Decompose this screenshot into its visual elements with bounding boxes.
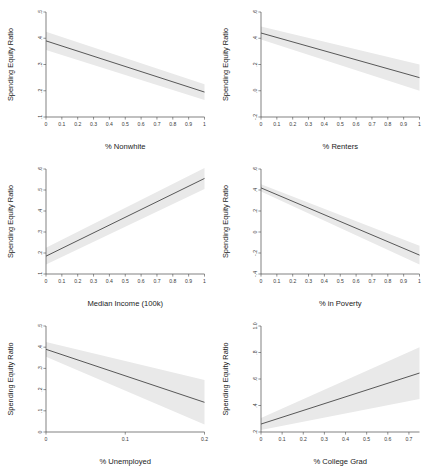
panel-grid: .5.4.3.2.100.10.20.30.40.50.60.70.80.91%… — [0, 0, 429, 472]
x-tick-label: 0.8 — [384, 121, 391, 127]
x-tick-label: 0.4 — [320, 121, 327, 127]
x-tick-label: 0 — [259, 436, 262, 442]
x-tick-label: 0.5 — [336, 278, 343, 284]
x-tick-label: 0.8 — [169, 278, 176, 284]
x-tick-label: 0.4 — [341, 436, 348, 442]
fit-line — [46, 178, 205, 256]
x-tick-label: 1 — [418, 278, 421, 284]
y-tick-label: .2 — [37, 387, 43, 391]
confidence-band — [261, 184, 420, 264]
x-tick-label: 0.6 — [138, 121, 145, 127]
confidence-band — [46, 342, 205, 425]
y-axis-label: Spending Equity Ratio — [6, 28, 15, 101]
y-tick-label: .6 — [252, 10, 258, 14]
y-tick-label: .0 — [252, 88, 258, 92]
y-axis-label: Spending Equity Ratio — [6, 185, 15, 258]
chart-panel: 1.0.8.6.4.200.10.20.30.40.50.60.7% Colle… — [215, 314, 429, 472]
x-tick-label: 0.5 — [122, 121, 129, 127]
y-tick-label: 0 — [37, 430, 43, 433]
x-tick-label: 0.1 — [58, 278, 65, 284]
y-tick-label: .3 — [37, 366, 43, 370]
x-tick-label: 0.3 — [305, 278, 312, 284]
x-tick-label: 0.3 — [320, 436, 327, 442]
chart-panel: .5.4.3.2.1000.10.2% UnemployedSpending E… — [0, 314, 215, 472]
x-tick-label: 0.9 — [185, 278, 192, 284]
x-tick-label: 0.5 — [363, 436, 370, 442]
chart-panel: .6.4.2.0-.200.10.20.30.40.50.60.70.80.91… — [215, 0, 429, 157]
x-tick-label: 0.1 — [122, 436, 129, 442]
fit-line — [46, 41, 205, 92]
x-tick-label: 0.9 — [400, 278, 407, 284]
x-tick-label: 0.1 — [278, 436, 285, 442]
x-tick-label: 0.2 — [299, 436, 306, 442]
x-tick-label: 0.3 — [90, 278, 97, 284]
x-tick-label: 0.1 — [58, 121, 65, 127]
x-tick-label: 0.7 — [368, 278, 375, 284]
y-tick-label: -.2 — [252, 114, 258, 120]
y-axis-label: Spending Equity Ratio — [221, 28, 230, 101]
x-tick-label: 0.6 — [352, 121, 359, 127]
x-tick-label: 0.7 — [405, 436, 412, 442]
y-tick-label: .4 — [252, 188, 258, 192]
x-tick-label: 0.8 — [169, 121, 176, 127]
x-axis-label: Median Income (100k) — [87, 299, 163, 308]
x-tick-label: 0.7 — [368, 121, 375, 127]
y-tick-label: .4 — [252, 36, 258, 40]
y-tick-label: .2 — [252, 209, 258, 213]
y-tick-label: 0 — [252, 230, 258, 233]
x-tick-label: 1 — [418, 121, 421, 127]
x-tick-label: 0.1 — [273, 278, 280, 284]
x-tick-label: 0 — [45, 121, 48, 127]
x-tick-label: 0.2 — [289, 278, 296, 284]
x-tick-label: 0.2 — [289, 121, 296, 127]
y-tick-label: .6 — [252, 377, 258, 381]
x-axis-label: % Nonwhite — [105, 142, 146, 151]
x-tick-label: 0.7 — [153, 121, 160, 127]
x-axis-label: % College Grad — [313, 457, 367, 466]
y-tick-label: -.4 — [252, 271, 258, 277]
x-tick-label: 0.4 — [106, 278, 113, 284]
y-axis-label: Spending Equity Ratio — [6, 342, 15, 415]
x-tick-label: 1 — [203, 278, 206, 284]
x-tick-label: 0.4 — [106, 121, 113, 127]
x-tick-label: 0.2 — [74, 121, 81, 127]
x-axis-label: % Unemployed — [100, 457, 152, 466]
x-tick-label: 0.2 — [74, 278, 81, 284]
x-tick-label: 0.7 — [153, 278, 160, 284]
y-tick-label: .1 — [37, 272, 43, 276]
y-tick-label: .2 — [252, 430, 258, 434]
y-tick-label: .4 — [37, 209, 43, 213]
y-tick-label: .3 — [37, 230, 43, 234]
x-tick-label: 0.6 — [384, 436, 391, 442]
y-tick-label: .4 — [37, 345, 43, 349]
fit-line — [261, 33, 420, 78]
x-tick-label: 0.3 — [305, 121, 312, 127]
x-tick-label: 0.1 — [273, 121, 280, 127]
y-tick-label: .2 — [37, 251, 43, 255]
x-tick-label: 0 — [259, 278, 262, 284]
x-tick-label: 0.9 — [400, 121, 407, 127]
y-tick-label: .6 — [37, 167, 43, 171]
y-tick-label: .5 — [37, 188, 43, 192]
x-tick-label: 0 — [45, 436, 48, 442]
y-axis-label: Spending Equity Ratio — [221, 185, 230, 258]
y-tick-label: .5 — [37, 324, 43, 328]
x-axis-label: % in Poverty — [318, 299, 361, 308]
x-tick-label: 1 — [203, 121, 206, 127]
confidence-band — [261, 26, 420, 90]
confidence-band — [46, 168, 205, 265]
y-tick-label: .3 — [37, 62, 43, 66]
confidence-band — [46, 32, 205, 100]
fit-line — [261, 188, 420, 255]
y-tick-label: .1 — [37, 115, 43, 119]
y-tick-label: .6 — [252, 167, 258, 171]
y-tick-label: .8 — [252, 350, 258, 354]
x-tick-label: 0.5 — [336, 121, 343, 127]
y-tick-label: -.2 — [252, 250, 258, 256]
y-tick-label: .2 — [252, 62, 258, 66]
chart-panel: .6.5.4.3.2.100.10.20.30.40.50.60.70.80.9… — [0, 157, 215, 314]
y-tick-label: 1.0 — [252, 322, 258, 329]
chart-panel: .5.4.3.2.100.10.20.30.40.50.60.70.80.91%… — [0, 0, 215, 157]
x-tick-label: 0.4 — [320, 278, 327, 284]
y-tick-label: .2 — [37, 88, 43, 92]
